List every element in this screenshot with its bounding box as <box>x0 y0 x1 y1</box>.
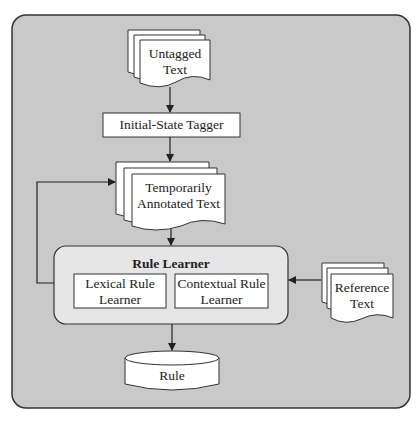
untagged-text-line1: Untagged <box>140 46 210 62</box>
temp-text-line1: Temporarily <box>132 180 225 196</box>
temporarily-annotated-text-label: Temporarily Annotated Text <box>132 180 225 212</box>
reference-text-line2: Text <box>331 296 393 312</box>
lexical-rule-learner-label: Lexical Rule Learner <box>74 276 166 308</box>
lexical-line2: Learner <box>74 292 166 308</box>
untagged-text-label: Untagged Text <box>140 46 210 78</box>
contextual-rule-learner-label: Contextual Rule Learner <box>175 276 268 308</box>
temp-text-line2: Annotated Text <box>132 196 225 212</box>
untagged-text-line2: Text <box>140 62 210 78</box>
reference-text-label: Reference Text <box>331 280 393 312</box>
contextual-line1: Contextual Rule <box>175 276 268 292</box>
rule-label: Rule <box>125 368 219 384</box>
initial-state-tagger-label: Initial-State Tagger <box>103 117 240 133</box>
rule-learner-title: Rule Learner <box>54 256 288 272</box>
lexical-line1: Lexical Rule <box>74 276 166 292</box>
reference-text-line1: Reference <box>331 280 393 296</box>
contextual-line2: Learner <box>175 292 268 308</box>
